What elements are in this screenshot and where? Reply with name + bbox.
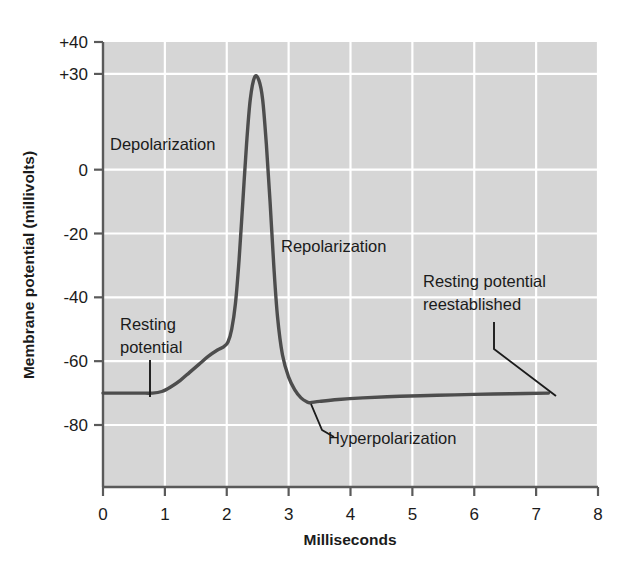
y-axis-title: Membrane potential (millivolts) — [20, 151, 37, 379]
y-tick-label: +30 — [59, 65, 88, 84]
y-tick-label: -60 — [63, 352, 88, 371]
x-tick-label: 4 — [346, 505, 355, 524]
y-tick-label: -20 — [63, 225, 88, 244]
y-axis-tick-labels: +40+300-20-40-60-80 — [59, 33, 88, 435]
x-tick-label: 2 — [222, 505, 231, 524]
x-axis-title: Milliseconds — [303, 531, 396, 548]
annotation-resting-potential-reestablished-line1: Resting potential — [423, 272, 546, 290]
y-tick-label: -40 — [63, 288, 88, 307]
annotation-resting-potential-line2: potential — [120, 338, 182, 356]
x-tick-label: 0 — [98, 505, 107, 524]
annotation-resting-potential-reestablished-line2: reestablished — [423, 295, 521, 313]
annotation-repolarization: Repolarization — [281, 237, 386, 255]
x-tick-label: 7 — [531, 505, 540, 524]
annotation-depolarization: Depolarization — [110, 135, 215, 153]
y-axis-ticks — [94, 42, 103, 425]
x-axis-ticks — [103, 487, 598, 496]
y-tick-label: +40 — [59, 33, 88, 52]
x-tick-label: 6 — [470, 505, 479, 524]
x-tick-label: 1 — [160, 505, 169, 524]
y-tick-label: 0 — [79, 161, 88, 180]
x-axis-tick-labels: 012345678 — [98, 505, 602, 524]
x-tick-label: 3 — [284, 505, 293, 524]
annotation-hyperpolarization: Hyperpolarization — [328, 429, 456, 447]
x-tick-label: 8 — [593, 505, 602, 524]
action-potential-figure: +40+300-20-40-60-80 012345678 Membrane p… — [0, 0, 637, 569]
x-tick-label: 5 — [408, 505, 417, 524]
action-potential-chart: +40+300-20-40-60-80 012345678 Membrane p… — [0, 0, 637, 569]
annotation-resting-potential-line1: Resting — [120, 315, 176, 333]
y-tick-label: -80 — [63, 416, 88, 435]
